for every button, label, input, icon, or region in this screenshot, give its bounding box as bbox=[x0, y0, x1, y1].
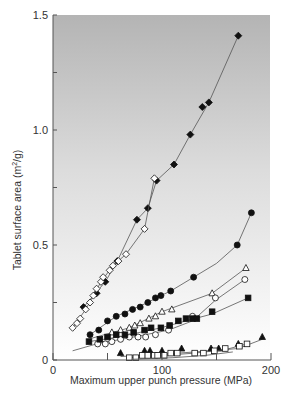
data-point bbox=[158, 325, 164, 331]
data-point bbox=[97, 337, 103, 343]
x-tick-label: 200 bbox=[262, 364, 280, 376]
data-point bbox=[242, 277, 248, 283]
data-point bbox=[105, 334, 111, 340]
data-point bbox=[145, 300, 151, 306]
data-point bbox=[137, 304, 143, 310]
data-point bbox=[176, 318, 182, 324]
data-point bbox=[113, 332, 119, 338]
surface-area-chart: 010020000.51.01.5 Maximum upper punch pr… bbox=[0, 0, 290, 400]
data-point bbox=[145, 353, 151, 359]
data-point bbox=[248, 210, 254, 216]
y-tick-label: 0 bbox=[42, 354, 48, 366]
data-point bbox=[148, 325, 154, 331]
data-point bbox=[130, 306, 136, 312]
data-point bbox=[174, 350, 180, 356]
data-point bbox=[245, 295, 251, 301]
data-point bbox=[192, 350, 198, 356]
data-point bbox=[168, 350, 174, 356]
data-point bbox=[86, 339, 92, 345]
data-point bbox=[96, 327, 102, 333]
y-tick-label: 1.0 bbox=[33, 124, 48, 136]
data-point bbox=[222, 346, 228, 352]
data-point bbox=[212, 295, 218, 301]
data-point bbox=[191, 274, 197, 280]
data-point bbox=[143, 334, 149, 340]
data-point bbox=[152, 332, 158, 338]
data-point bbox=[183, 316, 189, 322]
x-tick-label: 0 bbox=[50, 364, 56, 376]
y-tick-label: 0.5 bbox=[33, 239, 48, 251]
y-tick-label: 1.5 bbox=[33, 9, 48, 21]
data-point bbox=[142, 327, 148, 333]
data-point bbox=[155, 353, 161, 359]
data-point bbox=[102, 341, 108, 347]
data-point bbox=[87, 332, 93, 338]
y-axis-title: Tablet surface area (m2/g) bbox=[11, 150, 23, 271]
data-point bbox=[122, 311, 128, 317]
data-point bbox=[105, 318, 111, 324]
x-axis-title: Maximum upper punch pressure (MPa) bbox=[70, 374, 252, 386]
data-point bbox=[131, 330, 137, 336]
data-point bbox=[113, 313, 119, 319]
data-point bbox=[237, 343, 243, 349]
data-point bbox=[209, 309, 215, 315]
data-point bbox=[167, 323, 173, 329]
data-point bbox=[140, 353, 146, 359]
data-point bbox=[158, 293, 164, 299]
data-point bbox=[168, 288, 174, 294]
data-point bbox=[244, 341, 250, 347]
data-point bbox=[194, 316, 200, 322]
data-point bbox=[122, 332, 128, 338]
data-point bbox=[212, 348, 218, 354]
data-point bbox=[234, 242, 240, 248]
